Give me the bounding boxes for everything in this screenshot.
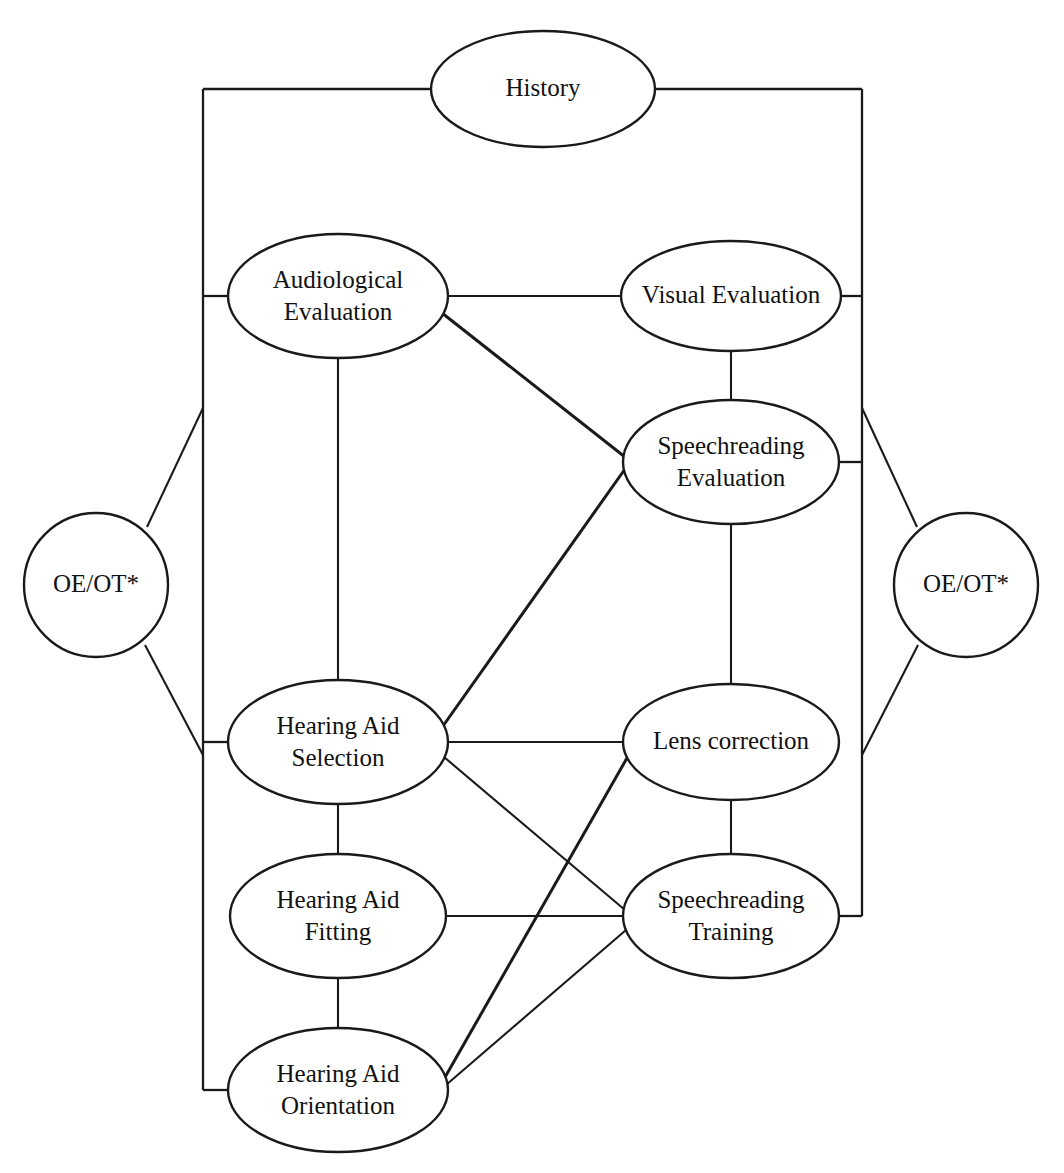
- node-hearing-aid-selection-label-line2: Selection: [291, 744, 385, 771]
- node-hearing-aid-fitting-label-line1: Hearing Aid: [277, 886, 400, 913]
- node-speechreading-evaluation-shape[interactable]: [623, 400, 839, 524]
- node-audiological-evaluation-label-line2: Evaluation: [284, 298, 393, 325]
- edge-lens-ha-orientation: [444, 758, 627, 1079]
- edge-oeot-right-to-right-rail-lower: [862, 645, 918, 755]
- node-oeot-left[interactable]: OE/OT*: [24, 513, 168, 657]
- node-hearing-aid-orientation-label-line2: Orientation: [281, 1092, 395, 1119]
- node-audiological-evaluation-shape[interactable]: [228, 234, 448, 358]
- node-oeot-left-label: OE/OT*: [53, 570, 139, 597]
- node-hearing-aid-orientation-shape[interactable]: [228, 1028, 448, 1152]
- node-visual-evaluation[interactable]: Visual Evaluation: [621, 241, 841, 351]
- node-speechreading-evaluation-label-line1: Speechreading: [657, 432, 805, 459]
- edge-ha-selection-speech-eval: [443, 469, 625, 726]
- node-speechreading-training-label-line2: Training: [688, 918, 774, 945]
- node-audiological-evaluation-label-line1: Audiological: [273, 266, 404, 293]
- node-lens-correction[interactable]: Lens correction: [623, 684, 839, 800]
- edge-right-rail-to-oeot-right-upper: [862, 408, 917, 527]
- edge-speech-train-ha-orientation: [446, 930, 626, 1085]
- diagram-root: History Audiological Evaluation Visual E…: [0, 0, 1064, 1173]
- node-hearing-aid-selection-shape[interactable]: [228, 680, 448, 804]
- node-speechreading-training-shape[interactable]: [623, 854, 839, 978]
- flowchart-canvas: History Audiological Evaluation Visual E…: [0, 0, 1064, 1173]
- edge-oeot-left-to-left-rail-lower: [145, 645, 203, 755]
- node-speechreading-training-label-line1: Speechreading: [657, 886, 805, 913]
- node-history-label: History: [506, 74, 582, 101]
- edge-left-rail-to-oeot-left-upper: [147, 408, 203, 527]
- node-oeot-right-label: OE/OT*: [923, 570, 1009, 597]
- node-speechreading-evaluation-label-line2: Evaluation: [677, 464, 786, 491]
- node-oeot-right[interactable]: OE/OT*: [894, 513, 1038, 657]
- node-hearing-aid-fitting-shape[interactable]: [230, 854, 446, 978]
- node-hearing-aid-orientation[interactable]: Hearing Aid Orientation: [228, 1028, 448, 1152]
- node-hearing-aid-selection-label-line1: Hearing Aid: [277, 712, 400, 739]
- node-visual-evaluation-label: Visual Evaluation: [642, 281, 821, 308]
- node-hearing-aid-fitting[interactable]: Hearing Aid Fitting: [230, 854, 446, 978]
- node-speechreading-evaluation[interactable]: Speechreading Evaluation: [623, 400, 839, 524]
- edge-audiological-speech-eval: [442, 313, 625, 457]
- node-hearing-aid-orientation-label-line1: Hearing Aid: [277, 1060, 400, 1087]
- node-lens-correction-label: Lens correction: [653, 727, 810, 754]
- edge-ha-selection-speech-train: [444, 757, 625, 910]
- node-history[interactable]: History: [431, 31, 655, 147]
- node-hearing-aid-fitting-label-line2: Fitting: [305, 918, 372, 945]
- node-audiological-evaluation[interactable]: Audiological Evaluation: [228, 234, 448, 358]
- node-hearing-aid-selection[interactable]: Hearing Aid Selection: [228, 680, 448, 804]
- node-speechreading-training[interactable]: Speechreading Training: [623, 854, 839, 978]
